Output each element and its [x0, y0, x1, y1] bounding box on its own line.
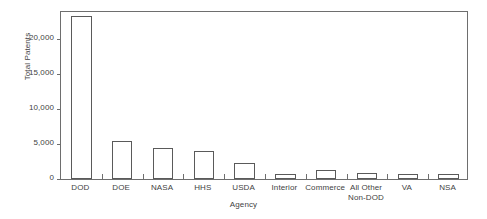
plot-area: 05,00010,00015,00020,000 [60, 11, 468, 180]
bar[interactable] [275, 174, 295, 179]
bar-slot [143, 12, 184, 179]
bar-chart: Total Patents 05,00010,00015,00020,000 D… [0, 0, 487, 219]
bars-layer [61, 12, 467, 179]
bar-slot [306, 12, 347, 179]
bar-slot [347, 12, 388, 179]
y-tick-label: 10,000 [29, 103, 54, 112]
bar[interactable] [438, 174, 458, 179]
bar-slot [224, 12, 265, 179]
y-tick-label: 0 [49, 173, 54, 182]
y-tick-label: 5,000 [33, 138, 54, 147]
bar[interactable] [71, 16, 91, 179]
y-tick-label: 20,000 [29, 33, 54, 42]
bar[interactable] [316, 170, 336, 179]
bar-slot [61, 12, 102, 179]
bar-slot [183, 12, 224, 179]
bar-slot [387, 12, 428, 179]
bar-slot [428, 12, 469, 179]
bar[interactable] [398, 174, 418, 179]
x-category-label: NSA [417, 183, 478, 193]
x-axis-title: Agency [0, 200, 487, 209]
bar-slot [265, 12, 306, 179]
y-tick-label: 15,000 [29, 68, 54, 77]
y-axis-title: Total Patents [23, 0, 32, 117]
bar[interactable] [234, 163, 254, 179]
bar[interactable] [357, 173, 377, 179]
bar[interactable] [194, 151, 214, 179]
bar[interactable] [112, 141, 132, 179]
x-category-label-line: NSA [417, 183, 478, 193]
bar[interactable] [153, 148, 173, 179]
bar-slot [102, 12, 143, 179]
